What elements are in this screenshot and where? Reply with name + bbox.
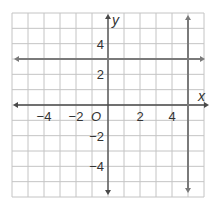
x-axis-label: x (197, 88, 206, 104)
arrowhead-icon (185, 188, 191, 193)
y-axis-label: y (111, 12, 120, 28)
arrowhead-icon (105, 14, 111, 19)
arrowhead-icon (105, 190, 111, 195)
x-tick-label: −4 (37, 109, 52, 124)
y-tick-label: 2 (97, 67, 104, 82)
x-tick-label: 2 (136, 109, 143, 124)
x-tick-label: −2 (69, 109, 84, 124)
y-tick-label: −2 (89, 129, 104, 144)
origin-label: O (91, 109, 101, 124)
arrowhead-icon (13, 102, 18, 108)
arrowhead-icon (14, 56, 19, 62)
x-tick-label: 4 (168, 109, 175, 124)
axes (13, 14, 209, 195)
y-tick-label: −4 (89, 159, 104, 174)
labels: x y O −4−22442−2−4 (37, 12, 206, 174)
arrowhead-icon (185, 15, 191, 20)
y-tick-label: 4 (97, 37, 104, 52)
coordinate-plane: x y O −4−22442−2−4 (0, 0, 213, 212)
